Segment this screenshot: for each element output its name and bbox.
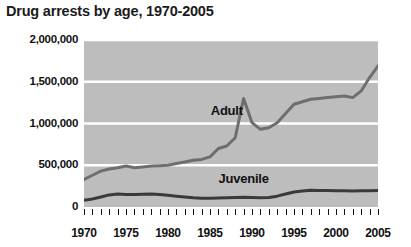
x-axis-tick: [109, 209, 110, 215]
x-axis-label: 1985: [197, 226, 223, 240]
y-axis-label: 500,000: [0, 158, 78, 170]
x-axis-tick: [252, 209, 253, 215]
y-axis-label: 0: [0, 200, 78, 212]
x-axis-tick: [101, 209, 102, 215]
x-axis-tick: [260, 209, 261, 215]
x-axis-tick: [344, 209, 345, 215]
x-axis-tick: [185, 209, 186, 215]
x-axis-tick: [126, 209, 127, 215]
x-axis-label: 1995: [281, 226, 307, 240]
x-axis-tick: [210, 209, 211, 215]
x-axis-tick: [286, 209, 287, 215]
x-axis-tick: [134, 209, 135, 215]
x-axis-tick: [218, 209, 219, 215]
x-axis-tick: [118, 209, 119, 215]
x-axis-tick: [227, 209, 228, 215]
x-axis-tick: [361, 209, 362, 215]
y-axis-label: 1,000,000: [0, 117, 78, 129]
x-axis-tick: [302, 209, 303, 215]
x-axis-tick: [319, 209, 320, 215]
x-axis-tick: [176, 209, 177, 215]
x-axis-tick: [143, 209, 144, 215]
series-annotation-adult: Adult: [211, 103, 243, 118]
y-axis-label: 1,500,000: [0, 75, 78, 87]
x-axis-label: 1975: [113, 226, 139, 240]
x-axis-tick: [353, 209, 354, 215]
series-annotation-juvenile: Juvenile: [218, 171, 268, 186]
x-axis-tick: [336, 209, 337, 215]
x-axis-tick: [202, 209, 203, 215]
x-axis-label: 1970: [71, 226, 97, 240]
x-axis-label: 1990: [239, 226, 265, 240]
y-axis-label: 2,000,000: [0, 33, 78, 45]
x-axis-tick: [277, 209, 278, 215]
x-axis-label: 2005: [365, 226, 391, 240]
x-axis-tick: [244, 209, 245, 215]
x-axis-tick: [84, 209, 85, 215]
x-axis-tick: [311, 209, 312, 215]
x-axis-tick: [151, 209, 152, 215]
x-axis-tick: [328, 209, 329, 215]
x-axis-tick: [92, 209, 93, 215]
chart-title: Drug arrests by age, 1970-2005: [6, 3, 214, 19]
x-axis-label: 2000: [323, 226, 349, 240]
x-axis-tick: [269, 209, 270, 215]
x-axis-tick: [370, 209, 371, 215]
x-axis-tick: [160, 209, 161, 215]
x-axis-tick: [378, 209, 379, 215]
x-axis-tick: [294, 209, 295, 215]
x-axis-tick: [193, 209, 194, 215]
x-axis-label: 1980: [155, 226, 181, 240]
chart-container: Drug arrests by age, 1970-2005 2,000,000…: [0, 0, 411, 247]
series-line-juvenile: [84, 190, 378, 200]
x-axis-tick: [235, 209, 236, 215]
x-axis-tick: [168, 209, 169, 215]
